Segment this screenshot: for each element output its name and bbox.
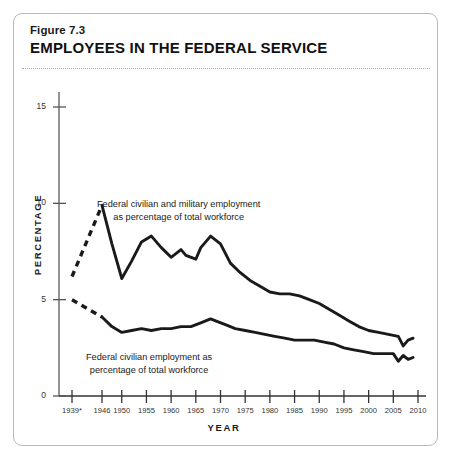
series-line-dashed-1 bbox=[72, 300, 102, 317]
x-axis-label: YEAR bbox=[164, 422, 284, 433]
y-axis-label: PERCENTAGE bbox=[32, 180, 43, 290]
x-tick-label: 2010 bbox=[398, 406, 438, 415]
chart-svg bbox=[14, 14, 439, 447]
chart-series-group bbox=[72, 205, 413, 361]
y-tick-label: 10 bbox=[24, 197, 46, 207]
figure-card: Figure 7.3 EMPLOYEES IN THE FEDERAL SERV… bbox=[13, 13, 438, 446]
series-line-solid-0 bbox=[102, 205, 413, 346]
y-tick-label: 15 bbox=[24, 101, 46, 111]
series-annotation-civilian: Federal civilian employment aspercentage… bbox=[86, 351, 212, 376]
chart-plot-area: PERCENTAGE YEAR 051015 1939*194619501955… bbox=[14, 14, 439, 447]
series-annotation-combined: Federal civilian and military employment… bbox=[97, 198, 260, 223]
y-tick-label: 5 bbox=[24, 294, 46, 304]
y-tick-label: 0 bbox=[24, 390, 46, 400]
